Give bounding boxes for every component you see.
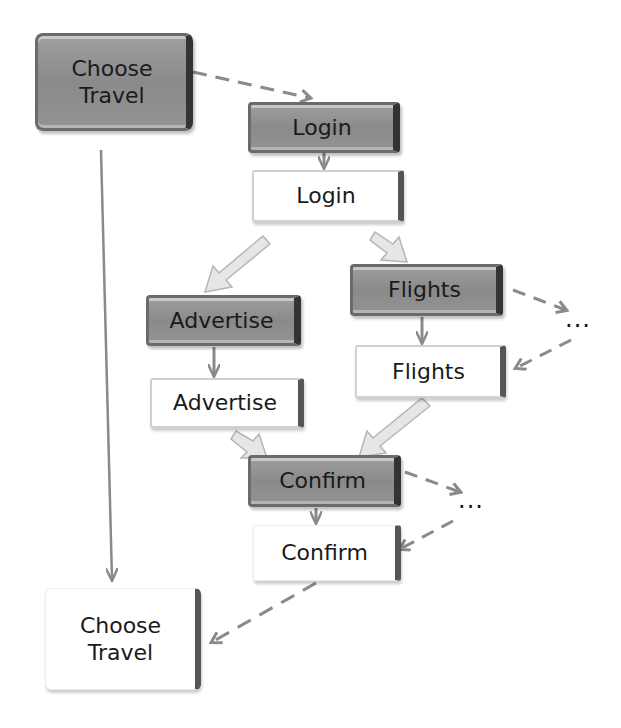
node-advertise-gray: Advertise <box>146 295 301 346</box>
edge-confirm-to-ellipsis <box>405 472 460 492</box>
node-label: Confirm <box>281 539 368 567</box>
edge-ellipsis-to-flights <box>516 340 571 368</box>
node-label: Login <box>292 114 351 142</box>
flights-ellipsis: ... <box>565 305 591 333</box>
confirm-ellipsis: ... <box>458 486 484 514</box>
node-choose-travel-top: Choose Travel <box>35 33 193 131</box>
node-label: Flights <box>392 358 465 386</box>
edge-choose-travel-to-login <box>193 72 310 98</box>
edge-confirm-to-choose-travel <box>212 583 316 642</box>
node-flights-white: Flights <box>355 345 506 398</box>
node-flights-gray: Flights <box>350 264 503 316</box>
node-confirm-gray: Confirm <box>248 455 401 507</box>
node-label: Choose Travel <box>62 55 162 110</box>
node-choose-travel-bottom: Choose Travel <box>45 588 201 690</box>
node-label: Advertise <box>173 389 277 417</box>
node-label: Login <box>296 182 355 210</box>
edge-flights-to-ellipsis <box>513 290 566 310</box>
node-advertise-white: Advertise <box>150 378 304 428</box>
node-label: Flights <box>388 276 461 304</box>
node-label: Confirm <box>279 467 366 495</box>
edge-choose-travel-down <box>101 150 112 580</box>
node-label: Advertise <box>170 307 274 335</box>
node-label: Choose Travel <box>71 612 171 667</box>
node-confirm-white: Confirm <box>253 525 401 581</box>
node-login-white: Login <box>252 170 404 222</box>
edge-ellipsis-to-confirm <box>400 521 453 549</box>
node-login-gray: Login <box>248 102 400 153</box>
